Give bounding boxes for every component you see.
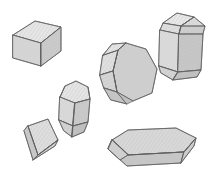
crystal-habits-figure [0, 0, 209, 174]
crystal-hexagonal-prism-tall [159, 13, 205, 80]
prism-shoulder-right-texture [179, 26, 205, 34]
crystal-diagram-canvas [0, 0, 209, 174]
tabular-face-top-texture [112, 128, 196, 155]
prism-body-left-texture [159, 30, 179, 72]
crystal-short-prism [59, 81, 90, 137]
prism-body-right-texture [178, 34, 203, 72]
